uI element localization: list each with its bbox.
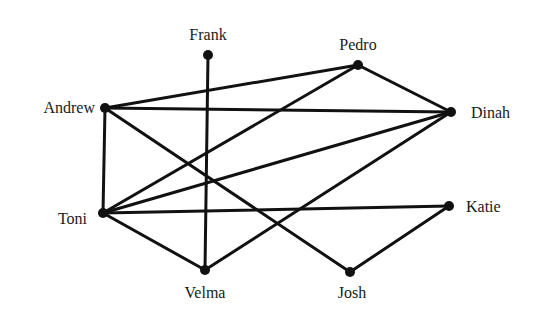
node-andrew — [100, 103, 110, 113]
node-pedro — [353, 60, 363, 70]
node-dinah — [446, 107, 456, 117]
edge-toni-katie — [103, 206, 449, 213]
edges-layer — [103, 55, 451, 272]
edge-velma-dinah — [205, 112, 451, 270]
node-label-katie: Katie — [466, 198, 501, 215]
node-label-dinah: Dinah — [471, 104, 510, 121]
node-josh — [345, 267, 355, 277]
edge-pedro-dinah — [358, 65, 451, 112]
node-toni — [98, 208, 108, 218]
node-label-josh: Josh — [338, 284, 366, 301]
graph-svg: FrankPedroAndrewDinahToniKatieVelmaJosh — [0, 0, 535, 314]
node-velma — [200, 265, 210, 275]
graph-diagram: FrankPedroAndrewDinahToniKatieVelmaJosh — [0, 0, 535, 314]
edge-toni-dinah — [103, 112, 451, 213]
node-katie — [444, 201, 454, 211]
node-label-toni: Toni — [58, 210, 88, 227]
node-frank — [203, 50, 213, 60]
edge-toni-velma — [103, 213, 205, 270]
edge-andrew-toni — [103, 108, 105, 213]
node-label-velma: Velma — [185, 284, 226, 301]
edge-josh-katie — [350, 206, 449, 272]
node-label-frank: Frank — [189, 26, 226, 43]
edge-frank-velma — [205, 55, 208, 270]
node-label-pedro: Pedro — [339, 36, 376, 53]
node-label-andrew: Andrew — [43, 99, 95, 116]
